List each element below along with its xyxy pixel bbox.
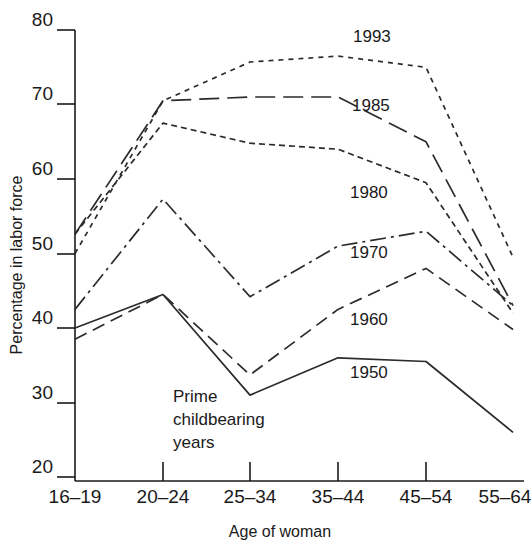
series-line-1985 <box>75 97 513 306</box>
series-label-1960: 1960 <box>350 310 388 329</box>
series-layer <box>75 56 513 432</box>
y-tick-label-50: 50 <box>32 233 53 254</box>
x-axis-title: Age of woman <box>229 523 331 540</box>
x-tick-label-16-19: 16–19 <box>49 486 102 507</box>
y-tick-marks <box>57 30 75 477</box>
y-tick-label-40: 40 <box>32 307 53 328</box>
x-tick-label-55-64: 55–64 <box>479 486 532 507</box>
series-line-1980 <box>75 123 513 313</box>
y-tick-label-80: 80 <box>32 9 53 30</box>
y-tick-label-70: 70 <box>32 83 53 104</box>
series-label-1993: 1993 <box>353 27 391 46</box>
y-tick-label-60: 60 <box>32 158 53 179</box>
series-label-1985: 1985 <box>352 96 390 115</box>
x-tick-marks <box>163 462 426 481</box>
series-label-1980: 1980 <box>350 183 388 202</box>
x-tick-label-20-24: 20–24 <box>137 486 190 507</box>
line-chart: Percentage in labor force 80 70 60 50 40… <box>0 0 532 558</box>
series-label-1970: 1970 <box>350 243 388 262</box>
prime-childbearing-years-annotation: Prime childbearing years <box>173 387 265 452</box>
x-tick-label-45-54: 45–54 <box>400 486 453 507</box>
y-axis-title: Percentage in labor force <box>8 176 25 355</box>
y-tick-label-20: 20 <box>32 456 53 477</box>
series-line-1960 <box>75 268 513 375</box>
chart-svg: Percentage in labor force 80 70 60 50 40… <box>0 0 532 558</box>
series-line-1950 <box>75 295 513 433</box>
annotation-line-2: childbearing <box>173 410 265 429</box>
series-label-1950: 1950 <box>350 363 388 382</box>
x-tick-label-25-34: 25–34 <box>224 486 277 507</box>
annotation-line-3: years <box>173 433 215 452</box>
x-tick-label-35-44: 35–44 <box>312 486 365 507</box>
y-tick-label-30: 30 <box>32 382 53 403</box>
annotation-line-1: Prime <box>173 387 217 406</box>
series-line-1993 <box>75 56 513 257</box>
